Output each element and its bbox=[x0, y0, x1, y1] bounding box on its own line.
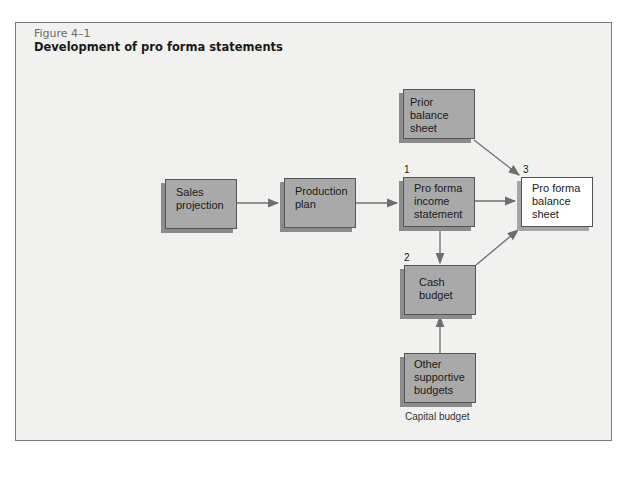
node-pro-forma-balance-sheet: Pro forma balance sheet bbox=[521, 177, 593, 227]
node-label: Production bbox=[295, 185, 355, 198]
node-income-statement: Pro forma income statement bbox=[403, 177, 475, 227]
node-label: balance bbox=[532, 195, 592, 208]
arrow-layer bbox=[0, 0, 633, 481]
node-label: plan bbox=[295, 198, 355, 211]
node-number: 1 bbox=[404, 164, 410, 175]
node-label: supportive bbox=[414, 371, 475, 384]
node-number: 3 bbox=[523, 164, 529, 175]
node-number: 2 bbox=[404, 252, 410, 263]
node-label: Cash bbox=[419, 276, 475, 289]
node-other-supportive-budgets: Other supportive budgets bbox=[404, 353, 476, 403]
node-label: sheet bbox=[410, 122, 474, 135]
node-label: Prior balance bbox=[410, 96, 474, 122]
node-label: projection bbox=[176, 199, 236, 212]
node-label: Other bbox=[414, 358, 475, 371]
node-label: Sales bbox=[176, 186, 236, 199]
arrow-prior-to-balance bbox=[474, 140, 519, 175]
node-label: Pro forma bbox=[532, 182, 592, 195]
node-production-plan: Production plan bbox=[284, 178, 356, 228]
node-label: Pro forma bbox=[414, 182, 474, 195]
node-label: budget bbox=[419, 289, 475, 302]
node-label: income bbox=[414, 195, 474, 208]
node-label: sheet bbox=[532, 208, 592, 221]
node-sales-projection: Sales projection bbox=[165, 179, 237, 229]
arrow-cash-to-balance bbox=[476, 230, 518, 265]
node-prior-balance-sheet: Prior balance sheet bbox=[403, 89, 475, 139]
capital-budget-caption: Capital budget bbox=[405, 411, 470, 422]
node-label: budgets bbox=[414, 384, 475, 397]
node-cash-budget: Cash budget bbox=[404, 265, 476, 315]
node-label: statement bbox=[414, 208, 474, 221]
